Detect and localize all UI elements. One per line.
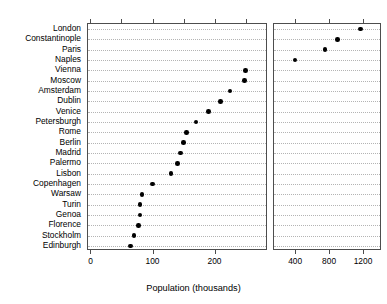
gridline-row (274, 81, 380, 82)
data-point-florence (136, 223, 141, 228)
gridline-row (88, 205, 266, 206)
gridline-row (274, 29, 380, 30)
gridline-row (274, 246, 380, 247)
gridline-row (274, 122, 380, 123)
gridline-row (274, 143, 380, 144)
gridline-row (88, 81, 266, 82)
gridline-row (274, 39, 380, 40)
category-label-palermo: Palermo (50, 157, 81, 167)
x-axis-title: Population (thousands) (0, 283, 387, 293)
category-label-rome: Rome (59, 126, 81, 136)
gridline-row (274, 163, 380, 164)
category-axis: LondonConstantinopleParisNaplesViennaMos… (0, 23, 84, 250)
gridline-row (88, 132, 266, 133)
gridline-row (88, 70, 266, 71)
gridline-row (274, 205, 380, 206)
data-point-paris (323, 47, 328, 52)
gridline-row (274, 91, 380, 92)
tick-mark-top-800 (329, 19, 330, 23)
gridline-row (274, 153, 380, 154)
gridline-row (274, 101, 380, 102)
tick-mark-top-minor-50 (121, 19, 122, 23)
tick-label-100: 100 (146, 256, 160, 266)
category-label-naples: Naples (55, 54, 81, 64)
gridline-row (88, 39, 266, 40)
gridline-row (88, 153, 266, 154)
gridline-row (274, 215, 380, 216)
gridline-row (88, 122, 266, 123)
gridline-row (274, 174, 380, 175)
tick-mark-top-0 (90, 19, 91, 23)
tick-label-0: 0 (88, 256, 93, 266)
tick-mark-top-200 (215, 19, 216, 23)
category-label-dublin: Dublin (57, 95, 81, 105)
tick-mark-bottom-100 (153, 250, 154, 254)
tick-mark-top-minor-250 (246, 19, 247, 23)
tick-mark-top-1200 (363, 19, 364, 23)
tick-mark-bottom-0 (90, 250, 91, 254)
data-point-constantinople (335, 37, 340, 42)
data-point-turin (138, 202, 143, 207)
category-label-lisbon: Lisbon (56, 168, 81, 178)
gridline-row (274, 70, 380, 71)
data-point-london (358, 27, 363, 32)
tick-mark-bottom-400 (295, 250, 296, 254)
category-label-genoa: Genoa (56, 209, 81, 219)
category-label-copenhagen: Copenhagen (33, 178, 81, 188)
gridline-row (274, 225, 380, 226)
category-label-berlin: Berlin (60, 137, 81, 147)
category-label-stockholm: Stockholm (42, 230, 81, 240)
tick-mark-top-400 (295, 19, 296, 23)
gridline-row (88, 236, 266, 237)
gridline-row (274, 132, 380, 133)
category-label-madrid: Madrid (55, 147, 81, 157)
data-point-venice (206, 109, 211, 114)
dot-plot-figure: LondonConstantinopleParisNaplesViennaMos… (0, 0, 387, 304)
category-label-edinburgh: Edinburgh (43, 240, 81, 250)
gridline-row (88, 184, 266, 185)
gridline-row (88, 50, 266, 51)
gridline-row (274, 236, 380, 237)
category-label-turin: Turin (62, 199, 81, 209)
gridline-row (88, 225, 266, 226)
gridline-row (274, 184, 380, 185)
data-point-petersburgh (194, 120, 199, 125)
plot-panel-left (87, 23, 267, 250)
category-label-vienna: Vienna (55, 64, 81, 74)
data-point-berlin (181, 140, 186, 145)
gridline-row (88, 174, 266, 175)
data-point-madrid (178, 151, 183, 156)
data-point-naples (293, 58, 298, 63)
tick-label-200: 200 (208, 256, 222, 266)
category-label-constantinople: Constantinople (25, 33, 81, 43)
tick-mark-bottom-1200 (363, 250, 364, 254)
data-point-genoa (138, 213, 143, 218)
gridline-row (88, 112, 266, 113)
tick-label-800: 800 (322, 256, 336, 266)
data-point-rome (184, 130, 189, 135)
category-label-florence: Florence (48, 219, 81, 229)
data-point-vienna (243, 68, 248, 73)
gridline-row (274, 60, 380, 61)
category-label-venice: Venice (56, 106, 81, 116)
category-label-petersburgh: Petersburgh (35, 116, 81, 126)
category-label-london: London (53, 23, 81, 33)
gridline-row (88, 91, 266, 92)
data-point-copenhagen (150, 182, 155, 187)
tick-mark-bottom-200 (215, 250, 216, 254)
category-label-amsterdam: Amsterdam (38, 85, 81, 95)
category-label-warsaw: Warsaw (51, 188, 81, 198)
gridline-row (274, 194, 380, 195)
gridline-row (88, 215, 266, 216)
category-label-moscow: Moscow (50, 75, 81, 85)
data-point-lisbon (169, 171, 174, 176)
plot-panel-right (273, 23, 381, 250)
gridline-row (88, 143, 266, 144)
data-point-warsaw (140, 192, 145, 197)
gridline-row (88, 246, 266, 247)
tick-label-400: 400 (288, 256, 302, 266)
data-point-palermo (175, 161, 180, 166)
data-point-stockholm (132, 233, 137, 238)
gridline-row (88, 194, 266, 195)
gridline-row (88, 101, 266, 102)
